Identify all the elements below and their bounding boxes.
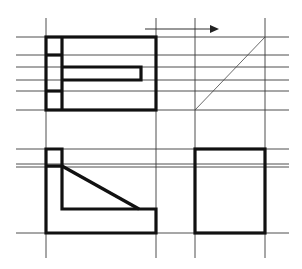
bottom-horizontal-construction-lines — [16, 149, 289, 233]
top-view — [46, 37, 156, 110]
drawing-canvas — [0, 0, 302, 269]
miter-line — [195, 37, 265, 110]
side-view — [195, 149, 265, 233]
front-view — [46, 149, 156, 233]
top-horizontal-construction-lines — [16, 37, 289, 110]
